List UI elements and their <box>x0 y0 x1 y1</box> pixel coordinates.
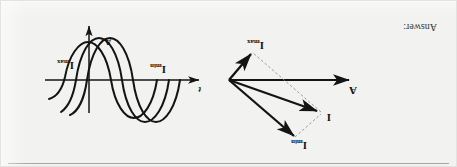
waveform-label-I-max: Imax <box>57 60 74 71</box>
waveform-label-I-min: Imin <box>150 64 166 75</box>
phasor-label-I-max: Imax <box>247 40 264 51</box>
vector-I-max <box>229 54 251 80</box>
phasor-label-I-min-sub: min <box>291 138 303 146</box>
figure-page: A I Imin Imax t A Imin Imax Answer: <box>0 0 457 167</box>
phasor-label-I-min: Imin <box>291 140 307 151</box>
construction-line-i-to-imax <box>252 52 321 112</box>
vector-I-min <box>229 80 294 136</box>
phasor-label-I-min-base: I <box>303 140 307 152</box>
phasor-label-A: A <box>349 85 357 96</box>
phasor-label-I-max-sub: max <box>247 38 260 46</box>
waveform-label-I-min-base: I <box>162 64 166 76</box>
phasor-vectors <box>229 52 349 137</box>
phasor-label-I: I <box>327 112 331 123</box>
waveform-label-A: A <box>104 36 112 47</box>
waveform-label-I-min-sub: min <box>150 62 162 70</box>
answer-label: Answer: <box>403 22 437 33</box>
waveform-label-t: t <box>198 85 201 94</box>
rotated-figure-group: A I Imin Imax t A Imin Imax Answer: <box>0 0 457 167</box>
waveform-plot <box>45 26 199 122</box>
waveform-label-I-max-sub: max <box>57 58 70 66</box>
vector-I <box>229 80 317 111</box>
phasor-diagram-svg <box>0 0 457 167</box>
bottom-divider <box>8 163 449 164</box>
construction-line-imin-to-i <box>295 114 321 137</box>
phasor-label-I-max-base: I <box>260 40 264 52</box>
waveform-label-I-max-base: I <box>70 60 74 72</box>
